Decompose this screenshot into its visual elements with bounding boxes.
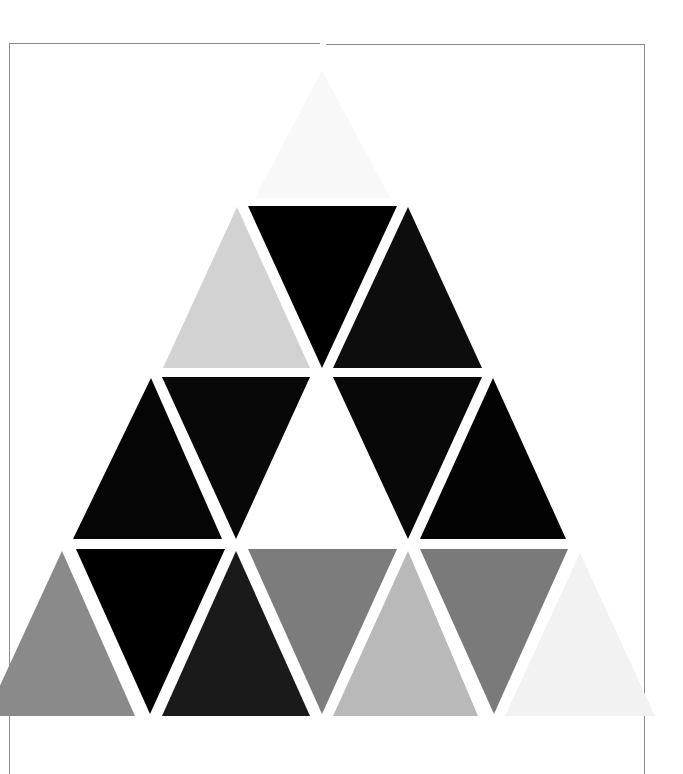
- artwork-canvas: [0, 0, 683, 774]
- triangle-mosaic: [0, 0, 683, 774]
- triangle-row0-up-0: [255, 70, 390, 198]
